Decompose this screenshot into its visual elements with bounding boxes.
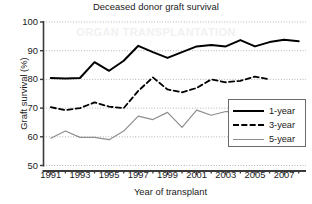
legend-label-1-year: 1-year	[269, 106, 295, 116]
legend-item-5-year: 5-year	[229, 131, 307, 147]
legend-swatch-1-year	[233, 105, 264, 117]
legend-swatch-3-year	[233, 119, 264, 131]
x-axis-label: Year of transplant	[43, 186, 298, 197]
series-line-1-year	[51, 40, 299, 79]
legend-label-3-year: 3-year	[269, 120, 295, 130]
chart-figure: ORGAN TRANSPLANTATION Deceased donor gra…	[0, 0, 312, 204]
legend-swatch-5-year	[233, 133, 264, 145]
legend-label-5-year: 5-year	[269, 134, 295, 144]
chart-legend: 1-year3-year5-year	[228, 99, 306, 147]
